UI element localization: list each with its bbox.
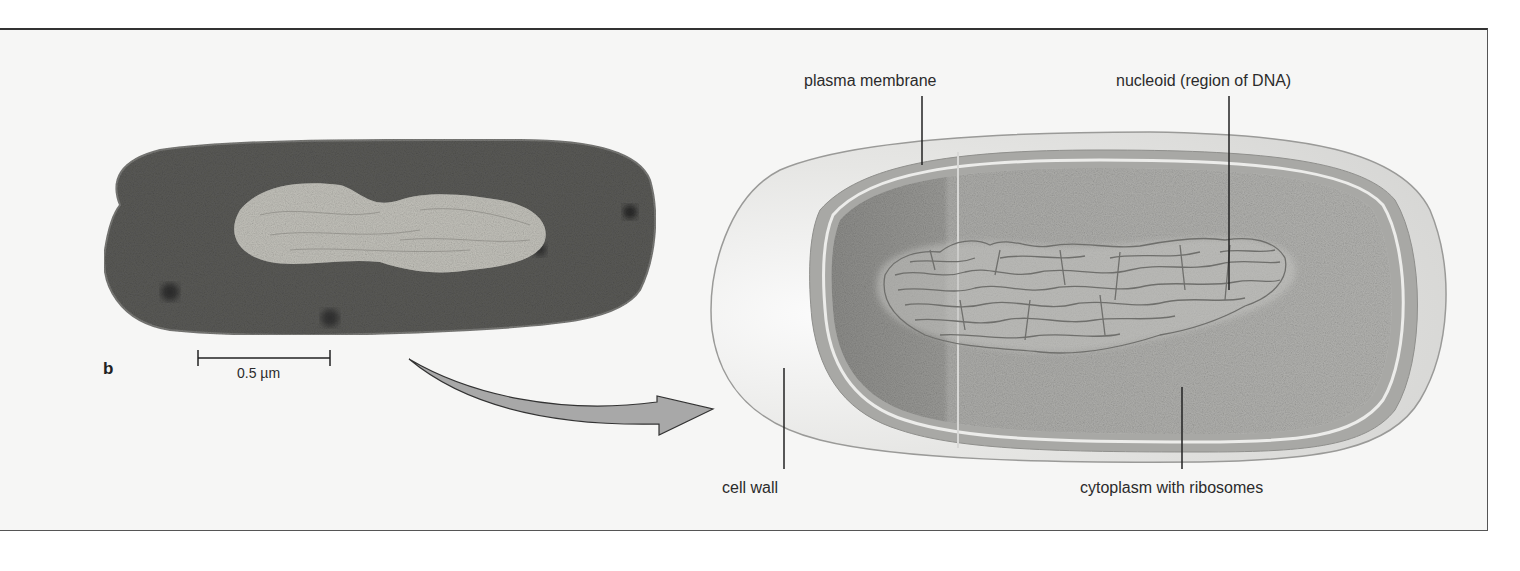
panel-letter: b [103, 359, 113, 379]
label-plasma-membrane: plasma membrane [804, 72, 937, 90]
label-cytoplasm: cytoplasm with ribosomes [1080, 479, 1263, 497]
cell-illustration [711, 132, 1446, 462]
label-nucleoid: nucleoid (region of DNA) [1116, 72, 1291, 90]
label-cell-wall: cell wall [722, 479, 778, 497]
curved-arrow-icon [409, 359, 713, 435]
scale-bar-label: 0.5 µm [237, 365, 280, 381]
micrograph [104, 140, 655, 335]
scale-bar [198, 350, 330, 366]
